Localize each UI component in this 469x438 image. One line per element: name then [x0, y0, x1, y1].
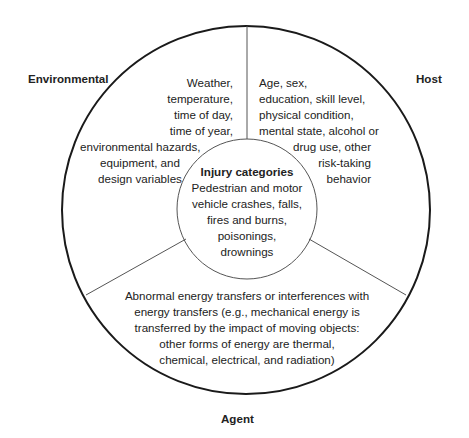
injury-category-line: vehicle crashes, falls,: [177, 196, 317, 212]
agent-text: Abnormal energy transfers or interferenc…: [97, 288, 397, 368]
agent-line: chemical, electrical, and radiation): [97, 352, 397, 368]
host-text-top: Age, sex, education, skill level, physic…: [259, 75, 379, 139]
environmental-line: time of year,: [167, 123, 233, 139]
agent-line: energy transfers (e.g., mechanical energ…: [97, 304, 397, 320]
host-line: mental state, alcohol or: [259, 123, 379, 139]
host-line: physical condition,: [259, 107, 379, 123]
injury-categories: Injury categories Pedestrian and motor v…: [177, 164, 317, 260]
divider-right: [309, 239, 406, 295]
environmental-text-top: Weather, temperature, time of day, time …: [167, 75, 233, 139]
agent-line: other forms of energy are thermal,: [97, 336, 397, 352]
environmental-line: temperature,: [167, 91, 233, 107]
injury-category-line: poisonings,: [177, 228, 317, 244]
injury-category-line: fires and burns,: [177, 212, 317, 228]
host-line: drug use, other: [293, 139, 371, 155]
environmental-line: Weather,: [167, 75, 233, 91]
injury-categories-title: Injury categories: [177, 164, 317, 180]
environmental-line: time of day,: [167, 107, 233, 123]
label-host: Host: [416, 72, 442, 85]
agent-line: transferred by the impact of moving obje…: [97, 320, 397, 336]
host-line: education, skill level,: [259, 91, 379, 107]
injury-category-line: Pedestrian and motor: [177, 180, 317, 196]
divider-left: [86, 239, 186, 295]
host-line: Age, sex,: [259, 75, 379, 91]
environmental-line: environmental hazards,: [80, 139, 200, 155]
injury-category-line: drownings: [177, 244, 317, 260]
label-environmental: Environmental: [28, 72, 109, 85]
label-agent: Agent: [221, 412, 254, 425]
agent-line: Abnormal energy transfers or interferenc…: [97, 288, 397, 304]
